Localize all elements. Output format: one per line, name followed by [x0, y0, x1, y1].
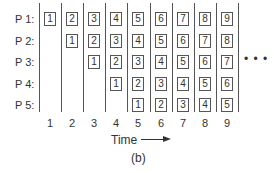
- stage-box: 4: [199, 98, 211, 112]
- stage-box: 7: [221, 55, 233, 69]
- processor-label: P 4:: [15, 77, 39, 91]
- stage-box: 4: [132, 34, 144, 48]
- stage-box: 5: [221, 98, 233, 112]
- column-divider: [172, 3, 173, 112]
- column-divider: [238, 3, 239, 112]
- stage-box: 3: [132, 55, 144, 69]
- stage-box: 4: [110, 12, 122, 26]
- stage-box: 8: [199, 12, 211, 26]
- column-divider: [83, 3, 84, 112]
- processor-label: P 1:: [15, 12, 39, 26]
- stage-box: 3: [88, 12, 100, 26]
- stage-box: 6: [221, 77, 233, 91]
- stage-box: 1: [66, 34, 78, 48]
- stage-box: 2: [155, 98, 167, 112]
- stage-box: 2: [88, 34, 100, 48]
- figure-caption: (b): [131, 151, 146, 165]
- stage-box: 1: [88, 55, 100, 69]
- stage-box: 4: [177, 77, 189, 91]
- arrow-head-icon: [163, 136, 171, 142]
- stage-box: 1: [110, 77, 122, 91]
- stage-box: 6: [177, 34, 189, 48]
- time-tick-label: 7: [176, 117, 190, 129]
- time-tick-label: 5: [131, 117, 145, 129]
- time-tick-label: 9: [220, 117, 234, 129]
- stage-box: 5: [177, 55, 189, 69]
- stage-box: 3: [155, 77, 167, 91]
- time-tick-label: 1: [43, 117, 57, 129]
- stage-box: 6: [155, 12, 167, 26]
- stage-box: 7: [199, 34, 211, 48]
- column-divider: [194, 3, 195, 112]
- stage-box: 1: [132, 98, 144, 112]
- time-axis-label: Time: [111, 133, 137, 147]
- stage-box: 6: [199, 55, 211, 69]
- stage-box: 9: [221, 12, 233, 26]
- stage-box: 2: [66, 12, 78, 26]
- time-tick-label: 2: [65, 117, 79, 129]
- stage-box: 1: [44, 12, 56, 26]
- continuation-ellipsis: • • •: [244, 52, 268, 66]
- stage-box: 2: [110, 55, 122, 69]
- column-divider: [150, 3, 151, 112]
- column-divider: [127, 3, 128, 112]
- processor-label: P 2:: [15, 34, 39, 48]
- stage-box: 4: [155, 55, 167, 69]
- column-divider: [105, 3, 106, 112]
- column-divider: [216, 3, 217, 112]
- column-divider: [61, 3, 62, 112]
- column-divider: [39, 3, 40, 112]
- time-tick-label: 3: [87, 117, 101, 129]
- stage-box: 3: [177, 98, 189, 112]
- time-tick-label: 8: [198, 117, 212, 129]
- time-tick-label: 6: [154, 117, 168, 129]
- stage-box: 2: [132, 77, 144, 91]
- stage-box: 8: [221, 34, 233, 48]
- stage-box: 5: [155, 34, 167, 48]
- stage-box: 5: [132, 12, 144, 26]
- stage-box: 3: [110, 34, 122, 48]
- stage-box: 7: [177, 12, 189, 26]
- processor-label: P 3:: [15, 55, 39, 69]
- time-arrow-icon: [141, 139, 165, 140]
- stage-box: 5: [199, 77, 211, 91]
- time-tick-label: 4: [109, 117, 123, 129]
- processor-label: P 5:: [15, 98, 39, 112]
